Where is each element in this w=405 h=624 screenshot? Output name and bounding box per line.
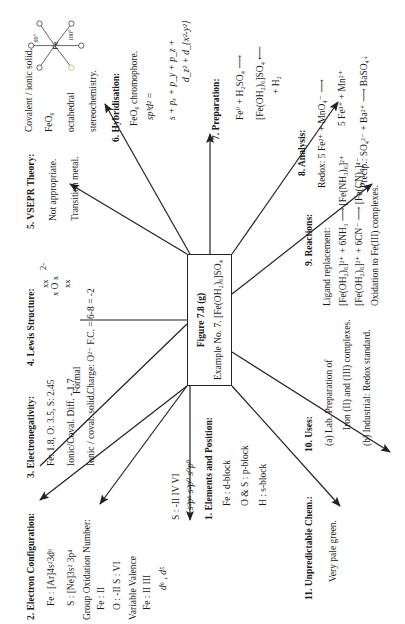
line: Ionic / coval. solid. (87, 393, 97, 466)
node-6-heading: 6. Hybridisation: (112, 73, 122, 142)
line: Charge: O²⁻ F.C. = 6-8 = -2 (87, 288, 97, 394)
line: Fe : II (97, 587, 107, 610)
line: Fe⁰ + H₂SO₄ ⟶ (236, 55, 246, 120)
line-1a (40, 324, 187, 466)
lewis-bottom-dots: xx (63, 280, 72, 289)
node-3-heading: 3. Electronegativity: (27, 396, 37, 478)
line: O : -II S : VI (113, 561, 123, 610)
node-8-heading: 8. Analysis: (298, 130, 308, 176)
line: Oxidation to Fe(III) complexes. (371, 185, 381, 306)
fe-octahedral-structure-icon: Fe 90° 180° (20, 0, 100, 76)
node-4-heading: 4. Lewis Structure: (27, 288, 37, 366)
node-11-heading: 11. Unpredictable Chem.: (305, 496, 315, 600)
line: Redox: 5 Fe²⁺ + MnO₄⁻ ⟶ (318, 79, 328, 188)
line: Fe : [Ar]4s²3d⁶ (47, 549, 57, 606)
line: Not appropriate. (49, 159, 59, 221)
line: Ligand replacement: (323, 228, 333, 306)
line: [Fe(OH₂)₆]²⁺ + 6CN⁻ ⟶ [Fe(CN)₆]⁴⁻ (355, 157, 365, 306)
line: FeO₆ chromophore. (130, 51, 140, 126)
line: (a) Lab. Preparation of (325, 359, 335, 446)
line: S : -II IV VI (172, 473, 182, 520)
arrow-to-4 (70, 184, 187, 254)
lewis-charge: 2- (39, 263, 48, 270)
arrow-to-2 (40, 386, 187, 500)
svg-text:180°: 180° (68, 29, 74, 41)
line: O & S : p-block (241, 445, 251, 506)
line: octahedral (67, 92, 77, 132)
node-5-heading: 5. VSEPR Theory: (27, 154, 37, 229)
center-figure-box: Figure 7.8 (g) Example No. 7. [Fe(OH₂)₆]… (187, 254, 232, 386)
line: + H₂ (272, 76, 282, 94)
lewis-top-dots: xx (41, 280, 50, 289)
svg-text:90°: 90° (33, 33, 39, 42)
svg-text:Fe: Fe (52, 41, 59, 49)
line: Transition metal. (71, 156, 81, 221)
line: Fe : d-block (223, 460, 233, 506)
figure-subtitle: Example No. 7. [Fe(OH₂)₆]SO₄ (213, 255, 223, 385)
node-10-heading: 10. Uses: (305, 416, 315, 452)
node-2-heading: 2. Electron Configuration: (27, 513, 37, 620)
line: s²p⁶ s²p⁰ s⁰p⁰ (186, 459, 196, 510)
line: H : s-block (259, 464, 269, 506)
line: stereochemistry. (89, 70, 99, 132)
line: Fe: 1.8, O: 3.5, S: 2.45 (47, 379, 57, 466)
example-label: Example No. 7. (213, 320, 223, 380)
line: d_z² + d_{x²-y²} (182, 20, 192, 82)
line: [Fe(OH₂)₆]²⁺ + 6NH₃ ⟶ [Fe(NH₃)₆]²⁺ (339, 155, 349, 306)
line: (b) Industrial: Redox standard. (363, 329, 373, 446)
line: d⁶ , d⁵ (159, 567, 169, 590)
line: 5 Fe³⁺ + Mn²⁺ (338, 70, 348, 126)
node-1-heading: 1. Elements and Position: (205, 417, 215, 520)
lewis-middle: x O x (51, 276, 61, 296)
line: sp³d² = (146, 92, 156, 120)
compound-formula: [Fe(OH₂)₆]SO₄ (213, 260, 223, 318)
arrow-to-7 (232, 184, 372, 294)
line: FeO₆ (45, 112, 55, 132)
line: s + pₓ + p_y + p_z + (168, 40, 178, 120)
line: Fe : II III (143, 575, 153, 610)
node-7-heading: 7. Preparation: (212, 78, 222, 140)
diagram-page: Figure 7.8 (g) Example No. 7. [Fe(OH₂)₆]… (0, 0, 405, 624)
line: S : [Ne]3s² 3p⁴ (67, 549, 77, 606)
line: Very pale green. (329, 520, 339, 582)
figure-title: Figure 7.8 (g) (196, 255, 206, 385)
line: [Fe(OH₂)₆]SO₄ ⟵ (256, 46, 266, 120)
line: Group Oxidation Number: (83, 519, 93, 620)
line: Iron (II) and (III) complexes. (343, 319, 353, 430)
line: Variable Valence (129, 556, 139, 620)
node-9-heading: 9. Reactions: (305, 214, 315, 266)
line: Formal (73, 367, 83, 394)
